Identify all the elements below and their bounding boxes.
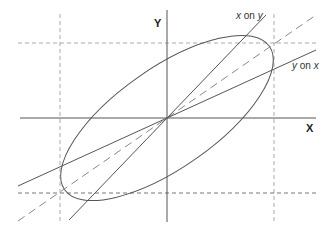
x-on-y-var1: x <box>236 10 241 21</box>
y-on-x-label: y on x <box>292 60 319 71</box>
y-on-x-on: on <box>300 60 311 71</box>
y-on-x-var2: x <box>314 60 319 71</box>
x-on-y-var2: y <box>258 10 263 21</box>
y-axis-label: Y <box>154 17 161 29</box>
x-axis-label: X <box>306 122 313 134</box>
diagram-canvas <box>0 0 332 232</box>
x-on-y-label: x on y <box>236 10 263 21</box>
y-on-x-var1: y <box>292 60 297 71</box>
x-on-y-on: on <box>244 10 255 21</box>
regression-lines-diagram: Y X x on y y on x <box>0 0 332 232</box>
